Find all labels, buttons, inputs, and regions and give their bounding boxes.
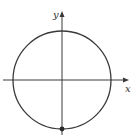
x-axis-arrowhead [123,78,129,83]
y-axis-label: y [52,9,59,20]
y-axis-arrowhead [60,11,65,17]
x-axis-label: x [125,83,131,94]
marked-point [60,127,65,132]
circle-diagram: x y [0,0,136,139]
